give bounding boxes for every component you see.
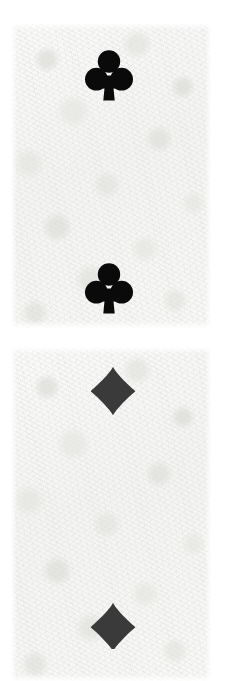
club-pip-bottom-icon [85,261,133,314]
diamond-pip-top-icon [90,366,136,416]
diamond-pip-bottom-icon [90,602,136,649]
club-pip-top-icon [85,48,133,101]
image-canvas [0,0,226,681]
